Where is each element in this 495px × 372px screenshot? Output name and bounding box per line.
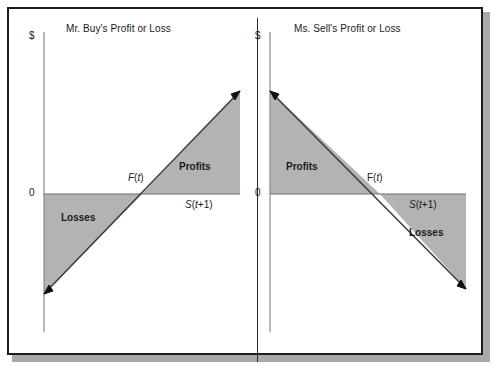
figure-frame: Mr. Buy's Profit or Loss $ 0 F(t) S(t+1)… [7,7,483,355]
chart-title-ms-sell: Ms. Sell's Profit or Loss [294,23,401,34]
spot-price-suffix-ms-sell: +1 [422,199,433,210]
spot-price-prefix-ms-sell: S [409,199,416,210]
y-axis-label-ms-sell: $ [255,30,261,41]
figure-root: Mr. Buy's Profit or Loss $ 0 F(t) S(t+1)… [0,0,495,372]
payoff-chart-ms-sell [9,9,485,357]
spot-price-label-ms-sell: S(t+1) [409,199,437,210]
loss-region-label-ms-sell: Losses [409,227,443,238]
profit-region-shading-ms-sell [270,91,380,194]
forward-price-label-ms-sell: F(t) [367,172,383,183]
profit-region-label-ms-sell: Profits [286,161,318,172]
zero-label-ms-sell: 0 [255,187,261,198]
